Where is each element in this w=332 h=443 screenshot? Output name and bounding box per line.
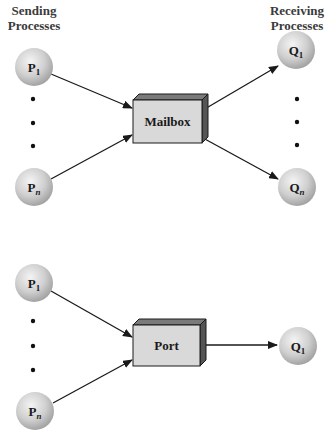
arrow-p1-to-port xyxy=(51,291,132,337)
port-box: Port xyxy=(133,319,206,366)
arrow-mailbox-to-qn xyxy=(203,138,278,179)
receiver-node-q1: Q1 xyxy=(277,31,315,69)
node-label: P xyxy=(28,60,36,75)
node-subscript: 1 xyxy=(299,50,304,60)
node-label: Q xyxy=(291,339,301,354)
receiver-node-q1: Q1 xyxy=(279,327,317,365)
port-section: Port P1 Pn Q1 xyxy=(15,264,317,430)
receiver-node-qn: Qn xyxy=(278,168,316,206)
node-subscript: 1 xyxy=(301,346,306,356)
node-label: Q xyxy=(289,180,299,195)
mailbox-port-diagram: Sending Processes Receiving Processes xyxy=(0,0,332,443)
mailbox-label: Mailbox xyxy=(144,114,191,129)
ellipsis-dot xyxy=(31,344,35,348)
sender-node-pn: Pn xyxy=(16,392,54,430)
mailbox-section: Mailbox P1 Pn Q1 Q xyxy=(15,31,316,206)
node-subscript: 1 xyxy=(36,283,41,293)
ellipsis-dot xyxy=(31,97,35,101)
node-label: P xyxy=(29,404,37,419)
node-subscript: 1 xyxy=(36,67,41,77)
arrow-p1-to-mailbox xyxy=(51,74,132,108)
node-subscript: n xyxy=(35,187,40,197)
ellipsis-dot xyxy=(295,143,299,147)
ellipsis-dot xyxy=(295,120,299,124)
sender-node-p1: P1 xyxy=(15,48,53,86)
node-label: P xyxy=(28,276,36,291)
ellipsis-dot xyxy=(31,368,35,372)
sender-node-p1: P1 xyxy=(15,264,53,302)
node-subscript: n xyxy=(36,411,41,421)
mailbox-box: Mailbox xyxy=(133,94,208,143)
arrow-mailbox-to-q1 xyxy=(203,66,278,110)
port-label: Port xyxy=(154,338,179,353)
arrow-pn-to-mailbox xyxy=(51,135,132,179)
node-subscript: n xyxy=(300,187,305,197)
ellipsis-dot xyxy=(295,97,299,101)
ellipsis-dot xyxy=(31,121,35,125)
ellipsis-dot xyxy=(31,144,35,148)
node-label: P xyxy=(28,180,36,195)
arrow-pn-to-port xyxy=(53,360,132,403)
node-label: Q xyxy=(289,43,299,58)
ellipsis-dot xyxy=(31,319,35,323)
sender-node-pn: Pn xyxy=(15,168,53,206)
